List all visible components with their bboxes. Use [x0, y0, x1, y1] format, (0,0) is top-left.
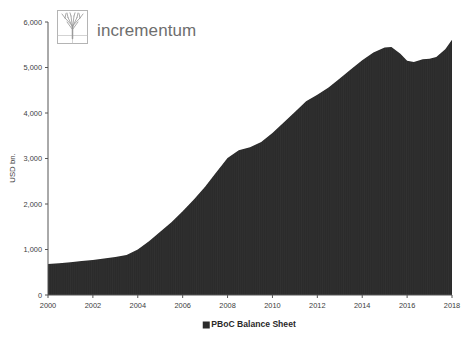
- x-tick-label: 2010: [264, 301, 280, 310]
- y-tick-label: 6,000: [24, 18, 43, 27]
- y-tick-label: 4,000: [24, 109, 43, 118]
- x-tick-label: 2012: [309, 301, 325, 310]
- x-tick-label: 2000: [40, 301, 56, 310]
- chart-legend: PBoC Balance Sheet: [203, 319, 296, 329]
- y-tick-label: 2,000: [24, 200, 43, 209]
- legend-swatch: [203, 322, 210, 329]
- x-tick-label: 2008: [219, 301, 235, 310]
- y-tick-label: 0: [38, 291, 42, 300]
- x-tick-label: 2006: [174, 301, 190, 310]
- area-chart: 01,0002,0003,0004,0005,0006,000 20002002…: [0, 0, 467, 343]
- y-tick-label: 5,000: [24, 63, 43, 72]
- brand-wordmark: incrementum: [97, 21, 196, 40]
- y-axis-title: USD bn.: [8, 153, 17, 182]
- x-tick-label: 2016: [399, 301, 415, 310]
- y-tick-label: 1,000: [24, 245, 43, 254]
- y-tick-label: 3,000: [24, 154, 43, 163]
- x-tick-label: 2004: [130, 301, 146, 310]
- x-tick-label: 2002: [85, 301, 101, 310]
- legend-label: PBoC Balance Sheet: [211, 319, 296, 329]
- x-tick-label: 2014: [354, 301, 370, 310]
- x-tick-label: 2018: [444, 301, 460, 310]
- tree-in-frame-icon: [58, 11, 88, 44]
- chart-container: 01,0002,0003,0004,0005,0006,000 20002002…: [0, 0, 467, 343]
